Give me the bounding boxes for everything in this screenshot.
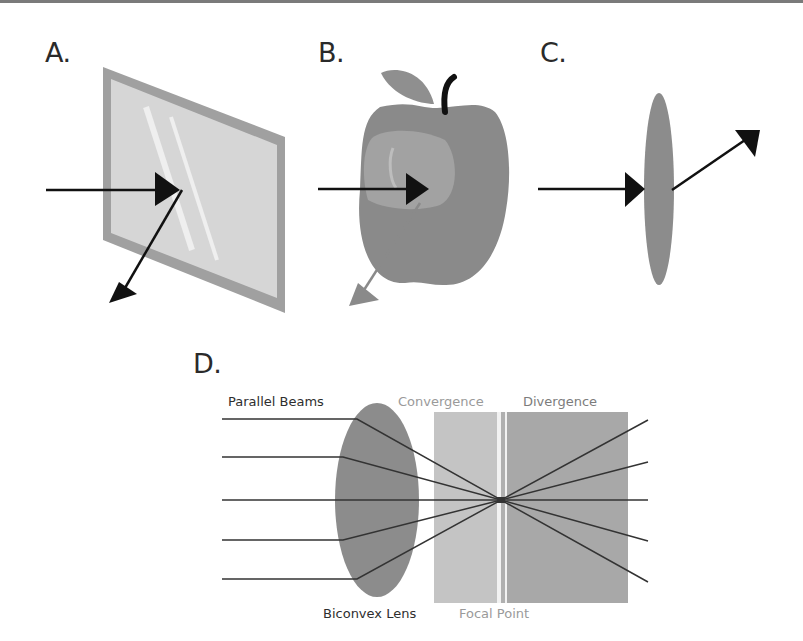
label-convergence: Convergence xyxy=(398,394,484,409)
label-divergence: Divergence xyxy=(523,394,597,409)
arrowhead-icon xyxy=(349,283,379,306)
arrowhead-icon xyxy=(625,172,645,207)
panel-b-apple xyxy=(359,70,509,285)
arrowhead-icon xyxy=(109,282,137,303)
label-biconvex-lens: Biconvex Lens xyxy=(323,606,416,621)
label-parallel-beams: Parallel Beams xyxy=(228,394,324,409)
panel-d-zones xyxy=(434,412,628,603)
thin-lens xyxy=(644,93,674,285)
apple-leaf xyxy=(381,70,434,104)
panel-c-lens xyxy=(644,93,674,285)
focal-point-marker xyxy=(497,497,505,503)
label-focal-point: Focal Point xyxy=(459,606,529,621)
optics-diagram xyxy=(0,0,803,641)
